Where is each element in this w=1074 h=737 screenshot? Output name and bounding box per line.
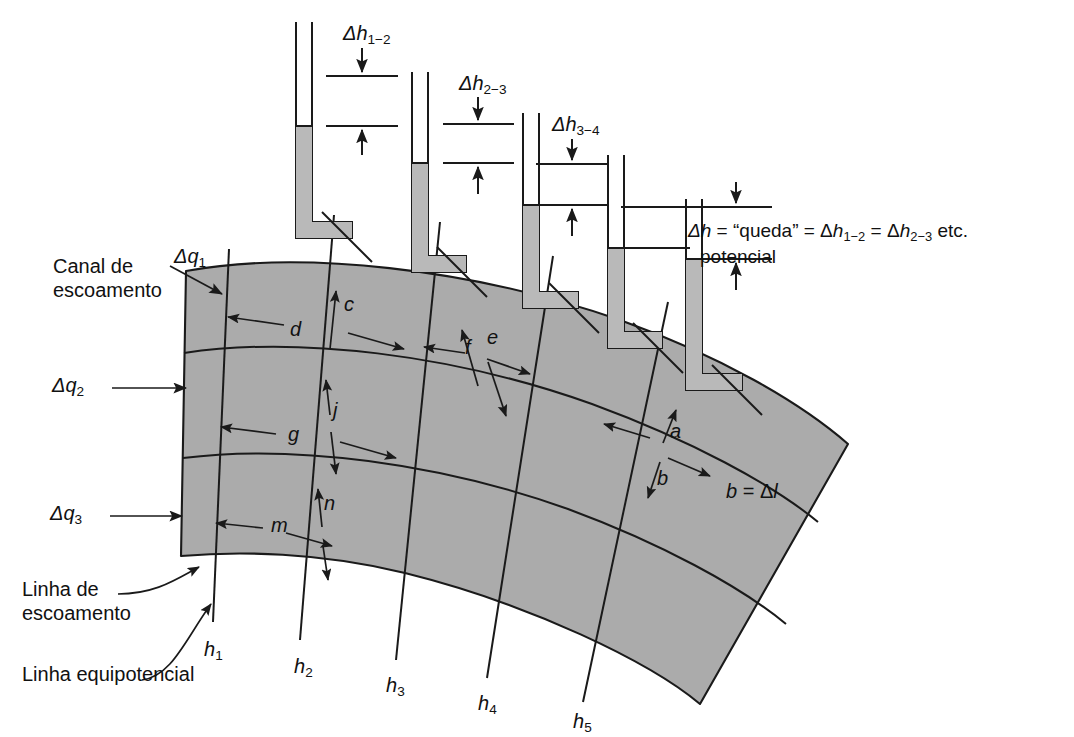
dq1-delta: Δ xyxy=(174,245,187,267)
level-connectors xyxy=(539,205,690,248)
legend-potencial: potencial xyxy=(700,246,776,268)
linha-esc-line2: escoamento xyxy=(22,602,131,626)
figure-canvas: Δh1−2 Δh2−3 Δh3−4 Δh = “queda” = Δh1−2 =… xyxy=(0,0,1074,737)
b-var: b xyxy=(726,480,737,502)
label-delta-q-3: Δq3 xyxy=(50,502,82,528)
canal-line2: escoamento xyxy=(53,279,162,303)
dim-letter-e: e xyxy=(487,326,498,350)
h-var: h xyxy=(565,113,576,135)
delta-symbol: Δ xyxy=(343,22,356,44)
legend-sub-2-3: 2−3 xyxy=(910,229,932,244)
legend-eq2: = Δ xyxy=(865,220,899,241)
dim-letter-n: n xyxy=(324,492,335,516)
legend-head-drop-equation: Δh = “queda” = Δh1−2 = Δh2−3 etc. xyxy=(688,220,968,244)
canal-line1: Canal de xyxy=(53,255,162,279)
h1-sub: 1 xyxy=(215,648,223,663)
h3-sub: 3 xyxy=(397,684,405,699)
head-drop-marks-1 xyxy=(326,48,398,155)
piezometer-tube-3 xyxy=(523,113,599,333)
subscript: 1−2 xyxy=(368,32,391,47)
dim-letter-b: b xyxy=(657,467,668,491)
delta-symbol: Δ xyxy=(552,113,565,135)
h1-var: h xyxy=(204,638,215,660)
label-delta-h-2-3: Δh2−3 xyxy=(459,72,507,98)
delta-symbol: Δ xyxy=(459,72,472,94)
h-var: h xyxy=(356,22,367,44)
label-linha-escoamento: Linha de escoamento xyxy=(22,578,131,625)
dq1-q: q xyxy=(187,245,198,267)
legend-sub-1-2: 1−2 xyxy=(843,229,865,244)
legend-delta: Δ xyxy=(688,220,701,241)
label-b-equals-delta-l: b = Δl xyxy=(726,480,778,504)
dq3-q: q xyxy=(63,502,74,524)
equipotential-label-h2: h2 xyxy=(294,655,313,681)
legend-h2: h xyxy=(833,220,844,241)
h4-sub: 4 xyxy=(489,702,497,717)
h2-var: h xyxy=(294,655,305,677)
dq2-delta: Δ xyxy=(52,374,65,396)
label-delta-q-1: Δq1 xyxy=(174,245,206,271)
h-var: h xyxy=(472,72,483,94)
b-eq: = Δ xyxy=(737,480,773,502)
equipotential-label-h4: h4 xyxy=(478,692,497,718)
equipotential-label-h5: h5 xyxy=(573,710,592,736)
dq2-q: q xyxy=(65,374,76,396)
dq3-delta: Δ xyxy=(50,502,63,524)
dim-letter-f: f xyxy=(465,336,471,360)
h5-var: h xyxy=(573,710,584,732)
dim-letter-m: m xyxy=(271,514,288,538)
label-delta-h-1-2: Δh1−2 xyxy=(343,22,391,48)
head-drop-marks-2 xyxy=(443,97,514,194)
label-linha-equipotencial: Linha equipotencial xyxy=(22,663,194,687)
h3-var: h xyxy=(386,674,397,696)
dq3-sub: 3 xyxy=(75,512,83,527)
label-delta-q-2: Δq2 xyxy=(52,374,84,400)
l-var: l xyxy=(773,480,777,502)
piezometer-tube-1 xyxy=(296,22,372,262)
legend-h: h xyxy=(701,220,712,241)
dim-letter-g: g xyxy=(288,423,299,447)
subscript: 2−3 xyxy=(484,82,507,97)
h2-sub: 2 xyxy=(305,665,313,680)
h5-sub: 5 xyxy=(584,720,592,735)
h4-var: h xyxy=(478,692,489,714)
legend-eq-queda: = “queda” = Δ xyxy=(711,220,833,241)
dim-letter-c: c xyxy=(344,293,354,317)
equipotential-label-h3: h3 xyxy=(386,674,405,700)
piezometer-tube-2 xyxy=(412,72,487,297)
dq2-sub: 2 xyxy=(77,384,85,399)
dq1-sub: 1 xyxy=(199,255,207,270)
equipotential-label-h1: h1 xyxy=(204,638,223,664)
dim-letter-j: j xyxy=(333,399,337,423)
legend-etc: etc. xyxy=(932,220,968,241)
dim-letter-a: a xyxy=(670,420,681,444)
label-delta-h-3-4: Δh3−4 xyxy=(552,113,600,139)
dim-letter-d: d xyxy=(290,318,301,342)
label-canal-escoamento: Canal de escoamento xyxy=(53,255,162,302)
subscript: 3−4 xyxy=(577,123,600,138)
head-drop-marks-3 xyxy=(536,139,607,236)
flow-net-diagram xyxy=(0,0,1074,737)
legend-h3: h xyxy=(900,220,911,241)
linha-esc-line1: Linha de xyxy=(22,578,131,602)
